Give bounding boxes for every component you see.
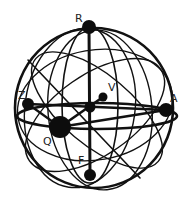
node-center[interactable] (85, 102, 96, 113)
node-V[interactable] (99, 93, 108, 102)
node-F[interactable] (84, 169, 96, 181)
node-R[interactable] (82, 20, 96, 34)
label-Q: Q (43, 135, 52, 148)
label-V: V (108, 81, 116, 94)
label-A: A (170, 92, 178, 105)
sphere-diagram: R Z V A Q F (0, 0, 187, 198)
label-F: F (78, 154, 84, 167)
node-A[interactable] (159, 103, 173, 117)
label-Z: Z (18, 89, 26, 102)
axis-R-F (89, 27, 90, 175)
label-R: R (75, 12, 83, 25)
node-Q[interactable] (49, 116, 71, 138)
